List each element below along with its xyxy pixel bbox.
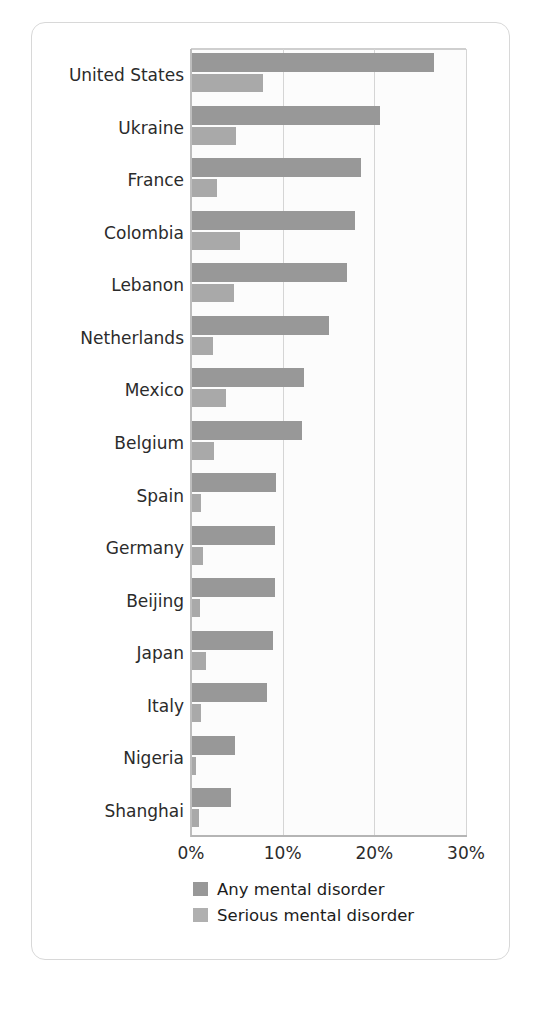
chart-legend: Any mental disorderSerious mental disord… bbox=[193, 876, 493, 928]
bar-any-mental-disorder bbox=[192, 578, 275, 597]
category-label-mexico: Mexico bbox=[14, 382, 184, 399]
bar-any-mental-disorder bbox=[192, 421, 302, 440]
category-label-netherlands: Netherlands bbox=[14, 330, 184, 347]
bar-serious-mental-disorder bbox=[192, 599, 200, 617]
bar-any-mental-disorder bbox=[192, 368, 304, 387]
bar-serious-mental-disorder bbox=[192, 757, 196, 775]
category-label-shanghai: Shanghai bbox=[14, 803, 184, 820]
category-label-beijing: Beijing bbox=[14, 593, 184, 610]
bar-any-mental-disorder bbox=[192, 473, 276, 492]
legend-swatch-icon bbox=[193, 908, 208, 922]
bar-serious-mental-disorder bbox=[192, 179, 217, 197]
bar-group bbox=[192, 102, 467, 155]
bar-group bbox=[192, 417, 467, 470]
bar-serious-mental-disorder bbox=[192, 809, 199, 827]
x-tick-label: 20% bbox=[344, 843, 404, 863]
figure-card: United StatesUkraineFranceColombiaLebano… bbox=[31, 22, 510, 960]
bar-serious-mental-disorder bbox=[192, 652, 206, 670]
bar-serious-mental-disorder bbox=[192, 704, 201, 722]
legend-swatch-icon bbox=[193, 882, 208, 896]
category-label-germany: Germany bbox=[14, 540, 184, 557]
legend-item: Serious mental disorder bbox=[193, 902, 493, 928]
bar-group bbox=[192, 259, 467, 312]
bar-group bbox=[192, 784, 467, 837]
bar-serious-mental-disorder bbox=[192, 284, 234, 302]
bar-any-mental-disorder bbox=[192, 106, 380, 125]
bar-any-mental-disorder bbox=[192, 788, 231, 807]
bar-any-mental-disorder bbox=[192, 263, 347, 282]
bar-serious-mental-disorder bbox=[192, 74, 263, 92]
bar-group bbox=[192, 207, 467, 260]
category-label-nigeria: Nigeria bbox=[14, 750, 184, 767]
legend-item: Any mental disorder bbox=[193, 876, 493, 902]
category-label-spain: Spain bbox=[14, 488, 184, 505]
bar-any-mental-disorder bbox=[192, 683, 267, 702]
bar-chart: United StatesUkraineFranceColombiaLebano… bbox=[32, 23, 511, 961]
bar-serious-mental-disorder bbox=[192, 232, 240, 250]
bar-any-mental-disorder bbox=[192, 316, 329, 335]
category-label-colombia: Colombia bbox=[14, 225, 184, 242]
bar-any-mental-disorder bbox=[192, 53, 434, 72]
category-label-belgium: Belgium bbox=[14, 435, 184, 452]
bar-serious-mental-disorder bbox=[192, 389, 226, 407]
category-label-lebanon: Lebanon bbox=[14, 277, 184, 294]
x-axis-line bbox=[191, 835, 467, 837]
x-tick-label: 30% bbox=[436, 843, 496, 863]
category-label-italy: Italy bbox=[14, 698, 184, 715]
bar-any-mental-disorder bbox=[192, 158, 361, 177]
bar-group bbox=[192, 574, 467, 627]
bar-any-mental-disorder bbox=[192, 526, 275, 545]
bar-any-mental-disorder bbox=[192, 631, 273, 650]
category-label-france: France bbox=[14, 172, 184, 189]
legend-label: Serious mental disorder bbox=[217, 906, 414, 925]
x-tick-label: 10% bbox=[253, 843, 313, 863]
bar-group bbox=[192, 312, 467, 365]
bar-group bbox=[192, 154, 467, 207]
bar-serious-mental-disorder bbox=[192, 337, 213, 355]
legend-label: Any mental disorder bbox=[217, 880, 385, 899]
bar-serious-mental-disorder bbox=[192, 442, 214, 460]
category-label-japan: Japan bbox=[14, 645, 184, 662]
bar-group bbox=[192, 49, 467, 102]
bar-group bbox=[192, 364, 467, 417]
bar-group bbox=[192, 732, 467, 785]
bar-group bbox=[192, 679, 467, 732]
bar-group bbox=[192, 627, 467, 680]
bar-serious-mental-disorder bbox=[192, 127, 236, 145]
bar-serious-mental-disorder bbox=[192, 547, 203, 565]
x-tick-label: 0% bbox=[161, 843, 221, 863]
bar-any-mental-disorder bbox=[192, 211, 355, 230]
bar-any-mental-disorder bbox=[192, 736, 235, 755]
bar-group bbox=[192, 469, 467, 522]
bar-serious-mental-disorder bbox=[192, 494, 201, 512]
bar-group bbox=[192, 522, 467, 575]
category-label-united-states: United States bbox=[14, 67, 184, 84]
category-label-ukraine: Ukraine bbox=[14, 120, 184, 137]
